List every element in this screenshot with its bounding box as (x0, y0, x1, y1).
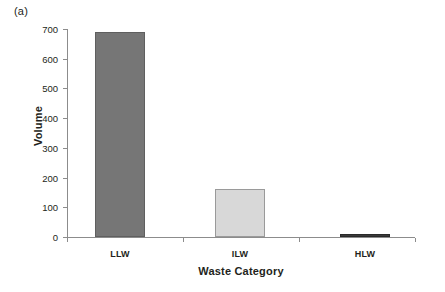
y-tick-500 (63, 88, 67, 89)
x-tick-label-ilw: ILW (200, 249, 280, 259)
y-tick-200 (63, 178, 67, 179)
x-tick-label-hlw: HLW (325, 249, 405, 259)
y-tick-400 (63, 118, 67, 119)
x-axis-line (67, 237, 415, 238)
y-tick-600 (63, 59, 67, 60)
x-tick-1 (183, 238, 184, 242)
y-axis-title: Volume (32, 66, 44, 186)
y-tick-300 (63, 148, 67, 149)
y-tick-label-700: 700 (18, 24, 58, 35)
bar-llw (95, 32, 145, 237)
y-tick-label-100: 100 (18, 202, 58, 213)
x-tick-start (67, 238, 68, 242)
y-tick-700 (63, 29, 67, 30)
x-tick-2 (299, 238, 300, 242)
bar-ilw (215, 189, 265, 237)
x-tick-end (415, 238, 416, 242)
x-tick-label-llw: LLW (80, 249, 160, 259)
y-tick-100 (63, 207, 67, 208)
plot-area: 700 600 500 400 300 200 100 0 LLW ILW HL… (0, 0, 445, 292)
y-axis-line (67, 29, 68, 238)
x-axis-title: Waste Category (67, 265, 415, 277)
y-tick-label-600: 600 (18, 54, 58, 65)
chart-figure: (a) 700 600 500 400 300 200 100 0 LLW IL… (0, 0, 445, 292)
bar-hlw (340, 234, 390, 237)
y-tick-label-0: 0 (18, 232, 58, 243)
